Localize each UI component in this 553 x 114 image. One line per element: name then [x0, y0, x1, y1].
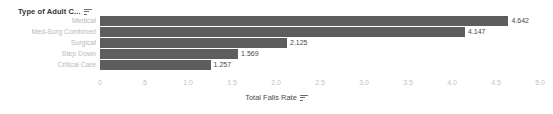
sort-descending-icon[interactable] [84, 8, 92, 16]
bar[interactable] [100, 27, 465, 37]
bar[interactable] [100, 60, 211, 70]
row-header-field-label: Type of Adult C... [18, 7, 81, 16]
plot-area: 4.642 4.147 2.125 1.569 1.257 [100, 16, 540, 74]
bar[interactable] [100, 16, 508, 26]
x-axis-tick-label: 4.0 [447, 79, 457, 86]
row-header-field-title[interactable]: Type of Adult C... [18, 7, 92, 16]
x-axis-tick-label: 2.0 [271, 79, 281, 86]
x-axis-tick-label: 2.5 [315, 79, 325, 86]
bar-row: 4.642 [100, 16, 540, 26]
x-axis-title[interactable]: Total Falls Rate [0, 93, 553, 102]
x-axis-tick-label: 3.5 [403, 79, 413, 86]
bar-row: 2.125 [100, 38, 540, 48]
sort-descending-icon[interactable] [300, 94, 308, 102]
x-axis-tick-label: 1.5 [227, 79, 237, 86]
bar-value-label: 1.257 [214, 60, 232, 70]
x-axis-title-label: Total Falls Rate [245, 93, 297, 102]
category-label: Medical [72, 16, 96, 26]
x-axis-tick-label: 1.0 [183, 79, 193, 86]
category-label: Critical Care [57, 60, 96, 70]
x-axis: 0.51.01.52.02.53.03.54.04.55.0 [100, 79, 540, 90]
category-label: Med-Surg Combined [31, 27, 96, 37]
category-label: Surgical [71, 38, 96, 48]
x-axis-tick-label: 4.5 [491, 79, 501, 86]
bar-row: 1.569 [100, 49, 540, 59]
x-axis-tick-label: 0 [98, 79, 102, 86]
bar-row: 4.147 [100, 27, 540, 37]
bar[interactable] [100, 49, 238, 59]
bar-value-label: 1.569 [241, 49, 259, 59]
category-axis: Medical Med-Surg Combined Surgical Step … [0, 16, 96, 74]
x-axis-tick-label: .5 [141, 79, 147, 86]
x-axis-tick-label: 5.0 [535, 79, 545, 86]
bar-chart-viz: Type of Adult C... Medical Med-Surg Comb… [0, 0, 553, 114]
category-label: Step Down [62, 49, 96, 59]
bar[interactable] [100, 38, 287, 48]
bar-value-label: 4.642 [511, 16, 529, 26]
bar-value-label: 2.125 [290, 38, 308, 48]
bar-row: 1.257 [100, 60, 540, 70]
bar-value-label: 4.147 [468, 27, 486, 37]
x-axis-tick-label: 3.0 [359, 79, 369, 86]
